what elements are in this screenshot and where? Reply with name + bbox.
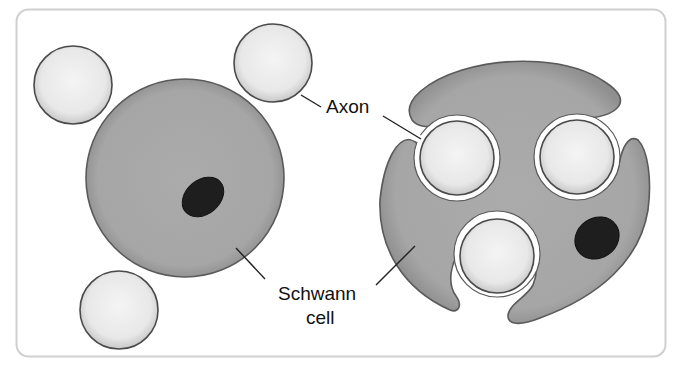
schwann-diagram: Axon Schwann cell [0, 0, 680, 373]
axon-circle [420, 121, 494, 195]
axon-circle [540, 120, 614, 194]
axon-circle [234, 24, 312, 102]
axon-circle [34, 46, 112, 124]
schwann-cell-body [86, 79, 284, 277]
schwann-label-line2: cell [306, 307, 335, 328]
axon-circle [460, 219, 534, 293]
schwann-label-line1: Schwann [278, 283, 356, 304]
axon-circle [80, 271, 158, 349]
axon-label: Axon [326, 96, 369, 117]
